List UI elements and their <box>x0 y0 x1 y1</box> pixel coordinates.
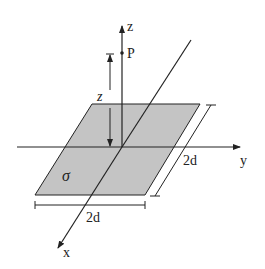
x-axis-label: x <box>63 245 70 260</box>
point-p <box>120 51 124 55</box>
charged-plane <box>35 104 200 195</box>
point-p-label: P <box>127 46 135 61</box>
side-dimension-label: 2d <box>183 153 197 168</box>
y-axis-label: y <box>240 153 247 168</box>
z-axis-label: z <box>127 19 133 34</box>
charged-plane-diagram: z P z y x σ 2d 2d <box>0 0 265 269</box>
height-label: z <box>96 89 103 104</box>
charge-density-label: σ <box>62 167 71 184</box>
bottom-dimension-label: 2d <box>86 210 100 225</box>
